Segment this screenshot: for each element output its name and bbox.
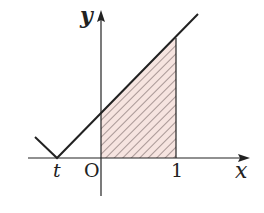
x-axis-label: x	[235, 158, 247, 183]
t-label: t	[53, 159, 61, 181]
y-axis-label: y	[80, 2, 93, 28]
one-label: 1	[171, 159, 183, 181]
origin-label: O	[84, 159, 100, 181]
graph-canvas	[0, 0, 264, 213]
shaded-region	[101, 38, 176, 158]
diagram: y x O t 1	[0, 0, 264, 213]
